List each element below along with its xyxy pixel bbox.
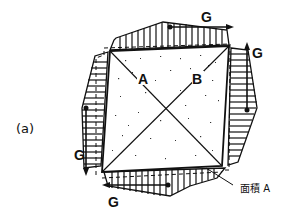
force-label-top: G <box>201 9 212 25</box>
area-label: 面積 A <box>240 182 270 194</box>
shear-diagram: A B G G G G 面積 A (a) <box>0 0 291 217</box>
area-leader-line <box>206 168 233 185</box>
panel-label: (a) <box>16 121 34 136</box>
force-label-bottom: G <box>108 194 119 210</box>
force-label-right: G <box>252 45 263 61</box>
force-label-left: G <box>74 147 85 163</box>
right-stress-block <box>228 48 257 165</box>
label-b: B <box>192 71 202 87</box>
bottom-stress-block <box>104 168 225 196</box>
shear-element <box>102 46 229 172</box>
label-a: A <box>138 71 148 87</box>
